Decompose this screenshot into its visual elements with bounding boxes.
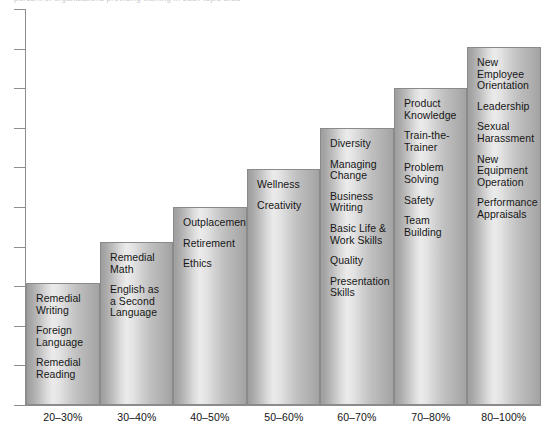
y-axis-tick xyxy=(14,167,25,168)
x-axis-tick-label: 80–100% xyxy=(467,411,541,423)
bar-topic-label: Wellness xyxy=(257,179,313,191)
bar-topic-label: Remedial Writing xyxy=(36,293,93,316)
bar-topic-label: Diversity xyxy=(330,138,387,150)
bar-topic-label: Safety xyxy=(404,195,460,207)
x-axis-tick-label: 70–80% xyxy=(394,411,468,423)
bar-label-list: Product KnowledgeTrain-the- TrainerProbl… xyxy=(395,89,466,404)
bar-topic-label: Performance Appraisals xyxy=(477,197,534,220)
x-axis-tick-label: 50–60% xyxy=(247,411,321,423)
bar-topic-label: Creativity xyxy=(257,200,313,212)
bar-label-list: New Employee OrientationLeadershipSexual… xyxy=(468,48,540,404)
x-axis-tick-label: 60–70% xyxy=(320,411,394,423)
y-axis-tick xyxy=(14,9,25,10)
bar-topic-label: Remedial Reading xyxy=(36,357,93,380)
bar-chart: Remedial WritingForeign LanguageRemedial… xyxy=(0,0,552,435)
x-axis-line xyxy=(14,405,541,406)
bar-30-40[interactable]: Remedial MathEnglish as a Second Languag… xyxy=(100,242,173,405)
bar-label-list: OutplacementRetirementEthics xyxy=(174,208,246,404)
bar-topic-label: Leadership xyxy=(477,101,534,113)
bar-topic-label: Quality xyxy=(330,255,387,267)
bar-label-list: Remedial MathEnglish as a Second Languag… xyxy=(101,243,172,404)
bar-topic-label: Outplacement xyxy=(183,217,240,229)
y-axis-tick xyxy=(14,326,25,327)
bar-topic-label: Remedial Math xyxy=(110,252,166,275)
bar-topic-label: Foreign Language xyxy=(36,325,93,348)
bar-topic-label: Product Knowledge xyxy=(404,98,460,121)
x-axis-tick-label: 30–40% xyxy=(100,411,174,423)
bar-60-70[interactable]: DiversityManaging ChangeBusiness Writing… xyxy=(320,128,394,405)
y-axis-tick xyxy=(14,247,25,248)
y-axis-tick xyxy=(14,207,25,208)
y-axis-tick xyxy=(14,88,25,89)
bar-label-list: WellnessCreativity xyxy=(248,170,319,404)
x-axis-labels: 20–30%30–40%40–50%50–60%60–70%70–80%80–1… xyxy=(26,411,541,431)
bar-topic-label: Ethics xyxy=(183,258,240,270)
bar-topic-label: New Employee Orientation xyxy=(477,57,534,92)
y-axis-tick xyxy=(14,365,25,366)
y-axis-tick xyxy=(14,49,25,50)
x-axis-tick-label: 40–50% xyxy=(173,411,247,423)
bar-50-60[interactable]: WellnessCreativity xyxy=(247,169,320,405)
bar-topic-label: Retirement xyxy=(183,238,240,250)
bar-label-list: Remedial WritingForeign LanguageRemedial… xyxy=(27,284,99,404)
bar-topic-label: Problem Solving xyxy=(404,162,460,185)
bar-topic-label: Presentation Skills xyxy=(330,276,387,299)
bar-topic-label: Train-the- Trainer xyxy=(404,130,460,153)
bars-group: Remedial WritingForeign LanguageRemedial… xyxy=(26,9,541,405)
bar-80-100[interactable]: New Employee OrientationLeadershipSexual… xyxy=(467,47,541,405)
bar-topic-label: Basic Life & Work Skills xyxy=(330,223,387,246)
bar-topic-label: New Equipment Operation xyxy=(477,154,534,189)
bar-topic-label: Managing Change xyxy=(330,159,387,182)
bar-topic-label: Business Writing xyxy=(330,191,387,214)
bar-label-list: DiversityManaging ChangeBusiness Writing… xyxy=(321,129,393,404)
bar-70-80[interactable]: Product KnowledgeTrain-the- TrainerProbl… xyxy=(394,88,467,405)
y-axis-tick xyxy=(14,286,25,287)
bar-topic-label: English as a Second Language xyxy=(110,284,166,319)
bar-20-30[interactable]: Remedial WritingForeign LanguageRemedial… xyxy=(26,283,100,405)
bar-40-50[interactable]: OutplacementRetirementEthics xyxy=(173,207,247,405)
x-axis-tick-label: 20–30% xyxy=(26,411,100,423)
bar-topic-label: Sexual Harassment xyxy=(477,121,534,144)
y-axis-tick xyxy=(14,128,25,129)
bar-topic-label: Team Building xyxy=(404,215,460,238)
